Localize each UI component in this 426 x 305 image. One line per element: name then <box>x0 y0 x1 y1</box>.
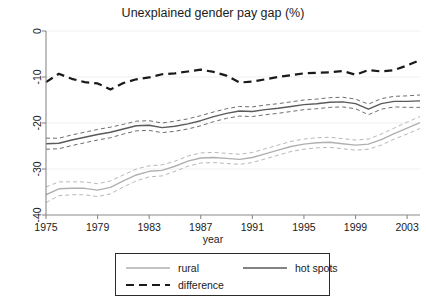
y-tick-label: 0 <box>31 28 43 34</box>
legend-label-rural: rural <box>178 262 199 274</box>
x-tick-label: 1991 <box>241 221 265 233</box>
x-tick-label: 1979 <box>86 221 110 233</box>
x-tick-label: 1995 <box>292 221 316 233</box>
y-tick-label: -10 <box>31 69 43 84</box>
legend-label-difference: difference <box>178 279 224 291</box>
x-axis-label: year <box>203 233 224 245</box>
pay-gap-line-chart: Unexplained gender pay gap (%) 0-10-20-3… <box>0 0 426 305</box>
y-tick-label: -20 <box>31 115 43 130</box>
legend-label-hot-spots: hot spots <box>295 262 338 274</box>
chart-title: Unexplained gender pay gap (%) <box>122 6 305 20</box>
y-tick-label: -30 <box>31 161 43 176</box>
legend: ruralhot spotsdifference <box>116 254 338 296</box>
x-tick-label: 2003 <box>395 221 419 233</box>
x-tick-label: 1987 <box>189 221 213 233</box>
x-tick-label: 1975 <box>34 221 58 233</box>
x-tick-label: 1999 <box>344 221 368 233</box>
x-tick-label: 1983 <box>137 221 161 233</box>
chart-figure: Unexplained gender pay gap (%) 0-10-20-3… <box>0 0 426 305</box>
